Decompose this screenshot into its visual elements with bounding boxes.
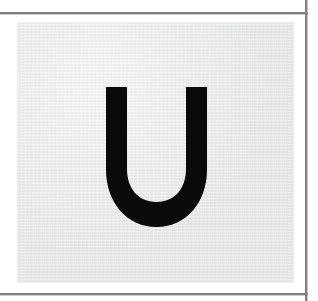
letter-card-page: U bbox=[0, 0, 318, 301]
right-vertical-rule bbox=[305, 0, 307, 301]
bottom-horizontal-rule bbox=[0, 293, 308, 295]
letter-u-glyph: U bbox=[106, 87, 207, 227]
top-horizontal-rule bbox=[0, 12, 308, 14]
letter-u-icon bbox=[106, 87, 207, 227]
letter-card-panel: U bbox=[17, 22, 294, 283]
